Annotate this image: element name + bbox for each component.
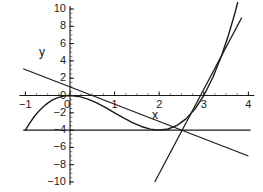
y-tick-label: 10: [28, 3, 66, 14]
y-tick-label: 4: [28, 55, 66, 66]
y-tick-label: 8: [28, 20, 66, 31]
y-tick-label: −8: [28, 159, 66, 170]
x-tick-label: 3: [191, 99, 217, 110]
y-tick-label: 6: [28, 38, 66, 49]
y-tick-label: −10: [28, 176, 66, 187]
x-axis-label: x: [152, 110, 158, 121]
x-tick-label: 1: [102, 99, 128, 110]
x-tick-label: −1: [12, 99, 38, 110]
x-tick-label: 2: [146, 99, 172, 110]
graph-figure: 1086420−2−4−6−8−10−101234 y x: [0, 0, 263, 192]
x-tick-label: 4: [235, 99, 261, 110]
y-tick-label: −4: [28, 124, 66, 135]
x-tick-label: 0: [44, 99, 70, 110]
y-axis-label: y: [39, 47, 45, 58]
y-tick-label: −6: [28, 141, 66, 152]
y-tick-label: 2: [28, 72, 66, 83]
